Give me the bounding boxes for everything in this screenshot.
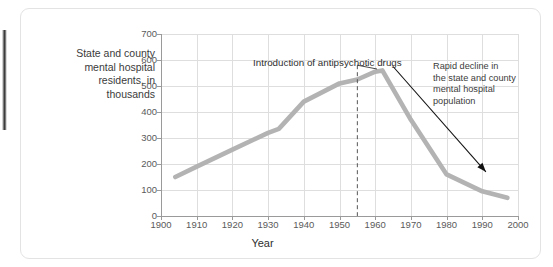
gridline-vertical [232,34,233,216]
x-tick-label: 1950 [320,219,360,230]
x-tick-label: 1900 [141,219,181,230]
x-tick-label: 2000 [498,219,538,230]
annotation-decline-line-2: the state and county [433,73,537,85]
y-tick-labels: 0100200300400500600700 [125,34,157,216]
annotation-decline-line-3: mental hospital [433,84,537,96]
x-tick-label: 1940 [284,219,324,230]
y-tick-label: 700 [125,29,157,39]
x-tick-mark [447,216,448,220]
x-axis-title-text: Year [251,237,273,249]
x-tick-label: 1980 [427,219,467,230]
annotation-decline-line-4: population [433,96,537,108]
figure-root: State and county mental hospital residen… [0,0,553,267]
annotation-decline-line-1: Rapid decline in [433,61,537,73]
x-tick-mark [232,216,233,220]
annotation-decline-label: Rapid decline in the state and county me… [433,61,537,107]
plot-top-border [161,34,518,35]
x-tick-mark [197,216,198,220]
y-tick-label: 300 [125,133,157,143]
x-tick-mark [268,216,269,220]
x-tick-label: 1990 [462,219,502,230]
y-tick-mark [157,60,161,61]
x-tick-mark [304,216,305,220]
x-tick-label: 1960 [355,219,395,230]
figure-card: State and county mental hospital residen… [20,8,541,259]
x-tick-mark [518,216,519,220]
gridline-vertical [411,34,412,216]
y-tick-label: 100 [125,185,157,195]
y-tick-mark [157,112,161,113]
x-tick-labels: 1900191019201930194019501960197019801990… [21,219,553,235]
y-tick-mark [157,190,161,191]
x-axis-title: Year [21,237,553,249]
x-tick-label: 1930 [248,219,288,230]
x-tick-mark [375,216,376,220]
y-tick-mark [157,34,161,35]
x-tick-mark [411,216,412,220]
page-edge-sliver [2,30,7,130]
annotation-intro-label: Introduction of antipsychotic drugs [253,57,402,70]
y-tick-label: 500 [125,81,157,91]
x-tick-label: 1970 [391,219,431,230]
y-tick-label: 200 [125,159,157,169]
x-tick-mark [482,216,483,220]
x-tick-label: 1920 [212,219,252,230]
y-tick-mark [157,164,161,165]
x-tick-mark [340,216,341,220]
y-tick-mark [157,138,161,139]
y-tick-label: 400 [125,107,157,117]
gridline-vertical [197,34,198,216]
x-tick-mark [161,216,162,220]
y-tick-mark [157,86,161,87]
x-tick-label: 1910 [177,219,217,230]
y-tick-label: 600 [125,55,157,65]
y-axis-line [161,34,162,216]
